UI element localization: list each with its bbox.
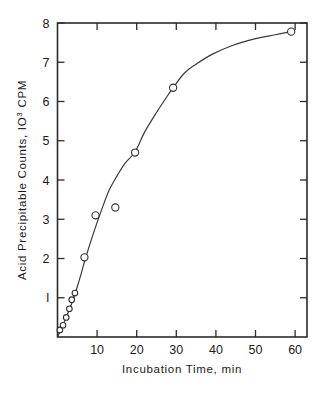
axis-frame bbox=[58, 23, 308, 337]
data-point-marker bbox=[63, 315, 69, 321]
data-point-marker bbox=[67, 306, 73, 312]
x-axis-tick-labels: 102030405060 bbox=[90, 343, 302, 357]
data-point-marker bbox=[60, 322, 66, 328]
y-tick-label: I bbox=[46, 291, 49, 305]
y-tick-label: 5 bbox=[43, 134, 50, 148]
y-tick-label: 4 bbox=[43, 174, 50, 188]
incubation-time-chart: 102030405060 I2345678 Incubation Time, m… bbox=[0, 0, 328, 394]
y-tick-label: 8 bbox=[43, 17, 50, 31]
data-point-marker bbox=[92, 212, 99, 219]
data-point-marker bbox=[81, 254, 88, 261]
x-tick-label: 30 bbox=[169, 343, 183, 357]
x-tick-label: 20 bbox=[130, 343, 144, 357]
y-tick-label: 6 bbox=[43, 95, 50, 109]
x-axis-title: Incubation Time, min bbox=[122, 363, 242, 375]
data-point-marker bbox=[72, 290, 78, 296]
data-point-marker bbox=[112, 204, 119, 211]
y-axis-tick-labels: I2345678 bbox=[43, 17, 50, 306]
trend-curve bbox=[58, 32, 292, 337]
data-point-marker bbox=[288, 28, 295, 35]
y-tick-label: 3 bbox=[43, 213, 50, 227]
y-axis-title: Acid Precipitable Counts, IO3 CPM bbox=[15, 80, 28, 280]
x-tick-label: 50 bbox=[249, 343, 263, 357]
data-point-marker bbox=[170, 84, 177, 91]
trend-curve-path bbox=[58, 32, 292, 337]
x-axis-ticks bbox=[97, 23, 295, 337]
y-axis-ticks bbox=[58, 23, 308, 298]
x-tick-label: 40 bbox=[209, 343, 223, 357]
data-point-marker bbox=[132, 149, 139, 156]
data-point-marker bbox=[69, 297, 75, 303]
y-axis-title-prefix: Acid Precipitable Counts, IO bbox=[16, 117, 28, 280]
y-tick-label: 7 bbox=[43, 56, 50, 70]
x-tick-label: 60 bbox=[288, 343, 302, 357]
y-axis-title-suffix: CPM bbox=[16, 80, 28, 112]
x-tick-label: 10 bbox=[90, 343, 104, 357]
data-point-markers bbox=[57, 28, 295, 333]
figure-panel: 102030405060 I2345678 Incubation Time, m… bbox=[0, 0, 328, 394]
y-tick-label: 2 bbox=[43, 252, 50, 266]
